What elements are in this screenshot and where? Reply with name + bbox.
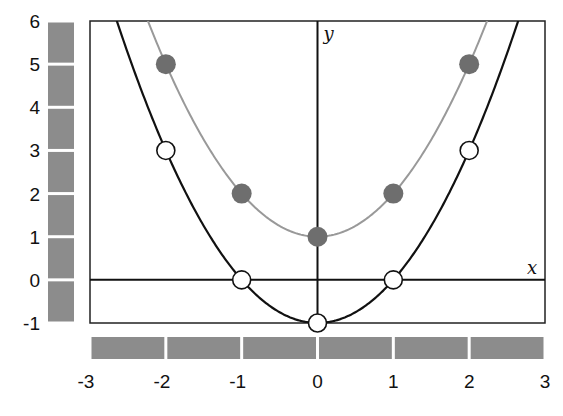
- y-scale-bars: [48, 23, 74, 322]
- y-scale-bar: [48, 281, 74, 321]
- y-scale-bar: [48, 152, 74, 192]
- y-scale-bar: [48, 66, 74, 106]
- y-tick-label: 0: [29, 270, 40, 291]
- x-axis-label: x: [527, 257, 537, 278]
- filled-circle-marker: [459, 54, 479, 74]
- y-tick-label: 3: [29, 140, 40, 161]
- open-circle-marker: [460, 141, 478, 159]
- x-tick-label: 3: [540, 371, 551, 392]
- filled-circle-marker: [232, 184, 252, 204]
- y-axis-label: y: [323, 23, 335, 44]
- x-scale-bar: [319, 337, 392, 359]
- y-tick-label: -1: [23, 313, 40, 334]
- open-circle-marker: [309, 314, 327, 332]
- x-tick-label: -2: [153, 371, 170, 392]
- x-scale-bar: [395, 337, 468, 359]
- x-tick-label: -1: [229, 371, 246, 392]
- x-scale-bars: [92, 337, 544, 359]
- y-tick-label: 5: [29, 54, 40, 75]
- y-tick-label: 1: [29, 227, 40, 248]
- y-tick-label: 4: [29, 97, 40, 118]
- x-scale-bar: [92, 337, 165, 359]
- x-scale-bar: [471, 337, 544, 359]
- y-tick-label: 2: [29, 184, 40, 205]
- x-scale-bar: [167, 337, 240, 359]
- y-scale-bar: [48, 195, 74, 235]
- x-tick-label: 0: [312, 371, 323, 392]
- filled-circle-marker: [308, 227, 328, 247]
- x-scale-bar: [243, 337, 316, 359]
- y-tick-label: 6: [29, 11, 40, 32]
- y-tick-labels: 6543210-1: [23, 11, 40, 334]
- open-circle-marker: [384, 271, 402, 289]
- y-scale-bar: [48, 109, 74, 149]
- chart: x y 6543210-1 -3-2-10123: [0, 0, 563, 416]
- x-tick-label: -3: [78, 371, 95, 392]
- filled-circle-marker: [383, 184, 403, 204]
- y-scale-bar: [48, 238, 74, 278]
- open-circle-marker: [233, 271, 251, 289]
- x-tick-labels: -3-2-10123: [78, 371, 551, 392]
- filled-circle-marker: [156, 54, 176, 74]
- x-tick-label: 2: [464, 371, 475, 392]
- y-scale-bar: [48, 23, 74, 63]
- open-circle-marker: [157, 141, 175, 159]
- x-tick-label: 1: [388, 371, 399, 392]
